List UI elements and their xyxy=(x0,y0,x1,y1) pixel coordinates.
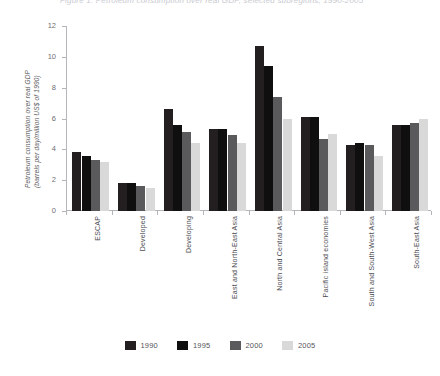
x-axis-tick xyxy=(112,211,113,215)
bar-group xyxy=(118,26,155,211)
bar xyxy=(237,143,246,211)
y-axis-line xyxy=(66,26,67,211)
legend-label: 1990 xyxy=(141,341,159,350)
bar xyxy=(328,134,337,211)
bar xyxy=(209,129,218,211)
legend-swatch-icon xyxy=(282,341,293,350)
legend-swatch-icon xyxy=(230,341,241,350)
y-axis-tick: 2 xyxy=(62,180,66,181)
bar xyxy=(419,119,428,212)
bar xyxy=(228,135,237,211)
y-axis-tick: 4 xyxy=(62,149,66,150)
bar xyxy=(72,152,81,211)
x-axis-tick xyxy=(157,211,158,215)
bar xyxy=(100,162,109,211)
x-axis-tick xyxy=(66,211,67,215)
bar xyxy=(191,143,200,211)
bar xyxy=(392,125,401,211)
legend-item[interactable]: 2005 xyxy=(282,341,316,350)
y-axis-tick-label: 6 xyxy=(38,114,56,123)
x-axis-category-label-text: Developed xyxy=(139,216,146,251)
bar xyxy=(374,156,383,212)
legend-label: 2005 xyxy=(298,341,316,350)
bar xyxy=(136,186,145,211)
bar-group xyxy=(346,26,383,211)
bar xyxy=(310,117,319,211)
bar xyxy=(355,143,364,211)
x-axis-tick xyxy=(340,211,341,215)
bar-group xyxy=(209,26,246,211)
bar-group xyxy=(164,26,201,211)
bar xyxy=(273,97,282,211)
legend-item[interactable]: 2000 xyxy=(230,341,264,350)
bar xyxy=(182,132,191,211)
y-axis-label-line2: (barrels per day/million US$ of 1990) xyxy=(33,75,42,188)
bar xyxy=(91,160,100,211)
x-axis-category-label-text: Developing xyxy=(185,216,192,253)
y-axis-label-line1: Petroleum consumption over real GDP xyxy=(24,70,33,188)
x-axis-tick xyxy=(294,211,295,215)
y-axis-tick: 10 xyxy=(62,57,66,58)
bar-group xyxy=(255,26,292,211)
x-axis-category-label-text: East and North-East Asia xyxy=(231,216,238,299)
y-axis-tick: 8 xyxy=(62,88,66,89)
bar xyxy=(173,125,182,211)
bar xyxy=(365,145,374,211)
chart-legend: 1990199520002005 xyxy=(0,341,440,350)
y-axis-tick-label: 12 xyxy=(38,21,56,30)
y-axis-tick-label: 0 xyxy=(38,206,56,215)
y-axis-tick: 12 xyxy=(62,26,66,27)
bar xyxy=(118,183,127,211)
x-axis-category-label-text: South and South-West Asia xyxy=(368,216,375,306)
bar xyxy=(301,117,310,211)
y-axis-tick: 6 xyxy=(62,119,66,120)
bar xyxy=(82,156,91,212)
bar-group xyxy=(72,26,109,211)
x-axis-category-label-text: North and Central Asia xyxy=(276,216,283,291)
bar xyxy=(127,183,136,211)
bar xyxy=(146,188,155,211)
legend-swatch-icon xyxy=(177,341,188,350)
x-axis-category-label-text: South-East Asia xyxy=(413,216,420,269)
bar xyxy=(410,123,419,211)
y-axis-tick-label: 2 xyxy=(38,175,56,184)
chart-container: Figure 1. Petroleum consumption over rea… xyxy=(0,0,440,376)
x-axis-tick xyxy=(249,211,250,215)
bar-group xyxy=(392,26,429,211)
bar xyxy=(255,46,264,211)
x-axis-tick xyxy=(385,211,386,215)
x-axis-category-label-text: ESCAP xyxy=(94,216,101,241)
legend-item[interactable]: 1990 xyxy=(125,341,159,350)
y-axis-tick-label: 4 xyxy=(38,144,56,153)
x-axis-tick xyxy=(431,211,432,215)
bar xyxy=(164,109,173,211)
bar xyxy=(218,129,227,211)
bar xyxy=(346,145,355,211)
plot-area: 024681012 xyxy=(66,26,431,211)
bar xyxy=(401,125,410,211)
x-axis-category-label-text: Pacific island economies xyxy=(322,216,329,297)
chart-title: Figure 1. Petroleum consumption over rea… xyxy=(60,0,440,6)
bar xyxy=(319,139,328,211)
legend-swatch-icon xyxy=(125,341,136,350)
bar-group xyxy=(301,26,338,211)
bar xyxy=(264,66,273,211)
legend-label: 1995 xyxy=(193,341,211,350)
legend-item[interactable]: 1995 xyxy=(177,341,211,350)
bar xyxy=(283,119,292,212)
y-axis-tick-label: 10 xyxy=(38,52,56,61)
x-axis-tick xyxy=(203,211,204,215)
legend-label: 2000 xyxy=(246,341,264,350)
y-axis-tick-label: 8 xyxy=(38,83,56,92)
